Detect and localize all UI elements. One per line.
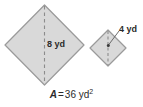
- area-caption: A=36 yd2: [0, 88, 143, 100]
- small-rhombus-leader-dot: [107, 44, 110, 47]
- area-variable: A: [50, 89, 57, 100]
- geometry-figure: 8 yd 4 yd A=36 yd2: [0, 0, 143, 107]
- small-rhombus-diagonal-label: 4 yd: [119, 25, 137, 34]
- large-rhombus-diagonal-label: 8 yd: [47, 40, 65, 49]
- area-value: 36 yd: [65, 89, 89, 100]
- area-equals-sign: =: [57, 89, 65, 100]
- area-exponent: 2: [89, 88, 93, 95]
